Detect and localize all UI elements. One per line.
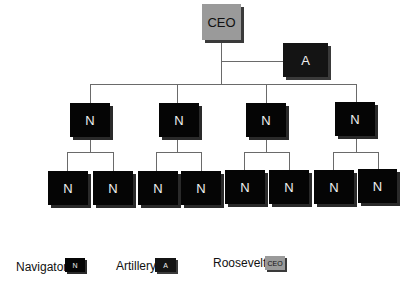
legend-navigator-label: Navigator <box>16 260 67 274</box>
node-label: N <box>48 171 88 205</box>
node-label: N <box>246 103 286 137</box>
connector-l1-2 <box>177 84 178 103</box>
navigator-node-l2-1b: N <box>93 171 133 205</box>
legend-roosevelt-label: Roosevelt <box>213 256 266 270</box>
navigator-node-l2-2b: N <box>181 171 221 205</box>
connector-l2-4a <box>333 152 334 171</box>
node-label: N <box>335 102 375 136</box>
navigator-node-l2-3b: N <box>269 170 309 204</box>
navigator-node-l2-1a: N <box>48 171 88 205</box>
ceo-node: CEO <box>202 4 241 40</box>
connector-l1-4-down <box>356 137 357 152</box>
node-label: N <box>138 171 178 205</box>
node-label: N <box>225 170 265 204</box>
navigator-node-l1-4: N <box>335 102 375 136</box>
node-label: N <box>93 171 133 205</box>
navigator-node-l1-3: N <box>246 103 286 137</box>
connector-l2-1a <box>67 152 68 171</box>
connector-level1-bus <box>90 84 357 85</box>
legend-swatch-label: N <box>65 258 85 272</box>
navigator-node-l1-1: N <box>70 103 110 137</box>
connector-l1-4 <box>356 84 357 103</box>
artillery-node-label: A <box>283 43 328 77</box>
connector-l2-bus-1 <box>67 152 113 153</box>
connector-ceo-down <box>221 40 222 84</box>
legend-swatch-label: A <box>155 258 176 272</box>
connector-l1-3 <box>266 84 267 103</box>
connector-l2-2b <box>201 152 202 171</box>
legend-navigator-swatch: N <box>65 258 85 272</box>
node-label: N <box>159 103 199 137</box>
artillery-node: A <box>283 43 328 77</box>
legend-artillery-swatch: A <box>155 258 176 272</box>
legend-swatch-label: CEO <box>265 256 285 270</box>
navigator-node-l2-2a: N <box>138 171 178 205</box>
navigator-node-l2-4a: N <box>314 170 354 204</box>
navigator-node-l1-2: N <box>159 103 199 137</box>
connector-l2-3b <box>289 152 290 171</box>
connector-l2-2a <box>156 152 157 171</box>
navigator-node-l2-3a: N <box>225 170 265 204</box>
node-label: N <box>70 103 110 137</box>
connector-l2-bus-2 <box>156 152 201 153</box>
node-label: N <box>269 170 309 204</box>
connector-l2-bus-4 <box>333 152 378 153</box>
connector-l2-3a <box>244 152 245 171</box>
connector-ceo-staff <box>221 61 283 62</box>
navigator-node-l2-4b: N <box>358 169 397 203</box>
legend-artillery-label: Artillery <box>116 259 156 273</box>
node-label: N <box>358 169 397 203</box>
connector-l2-1b <box>113 152 114 171</box>
node-label: N <box>314 170 354 204</box>
ceo-node-label: CEO <box>202 4 241 40</box>
connector-l2-bus-3 <box>244 152 289 153</box>
node-label: N <box>181 171 221 205</box>
connector-l1-1 <box>90 84 91 103</box>
legend-roosevelt-swatch: CEO <box>265 256 285 270</box>
